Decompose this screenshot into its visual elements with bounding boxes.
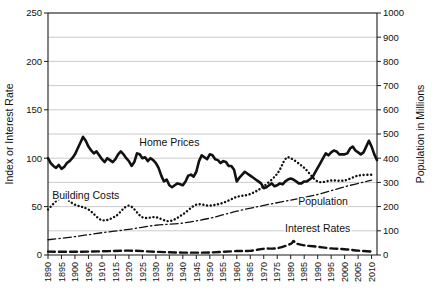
y-axis-title-right: Population in Millions bbox=[414, 85, 426, 184]
x-tick-label: 1990 bbox=[313, 262, 323, 282]
x-tick-label: 1895 bbox=[57, 262, 67, 282]
x-tick-label: 2000 bbox=[340, 262, 350, 282]
y-axis-title-left: Index or Interest Rate bbox=[3, 83, 15, 184]
y-tick-label-left: 150 bbox=[26, 104, 42, 115]
x-tick-label: 1910 bbox=[97, 262, 107, 282]
y-tick-label-right: 400 bbox=[383, 153, 399, 164]
y-tick-label-right: 900 bbox=[383, 32, 399, 43]
y-tick-label-right: 800 bbox=[383, 56, 399, 67]
y-tick-label-right: 1000 bbox=[383, 7, 404, 18]
x-tick-label: 1900 bbox=[70, 262, 80, 282]
x-tick-label: 1960 bbox=[232, 262, 242, 282]
series-interest-rates bbox=[48, 241, 372, 253]
x-tick-label: 1920 bbox=[124, 262, 134, 282]
chart-svg: 0501001502002500100200300400500600700800… bbox=[0, 0, 434, 299]
x-tick-label: 1890 bbox=[43, 262, 53, 282]
y-tick-label-right: 200 bbox=[383, 201, 399, 212]
x-tick-label: 1950 bbox=[205, 262, 215, 282]
y-tick-label-right: 0 bbox=[383, 249, 388, 260]
x-tick-label: 1905 bbox=[84, 262, 94, 282]
x-tick-label: 1940 bbox=[178, 262, 188, 282]
x-tick-label: 1930 bbox=[151, 262, 161, 282]
annotation-building-costs: Building Costs bbox=[52, 189, 119, 201]
y-tick-label-left: 0 bbox=[37, 249, 42, 260]
x-tick-label: 1955 bbox=[218, 262, 228, 282]
annotation-home-prices: Home Prices bbox=[139, 136, 199, 148]
x-tick-label: 1935 bbox=[165, 262, 175, 282]
x-tick-label: 1945 bbox=[192, 262, 202, 282]
y-tick-label-left: 250 bbox=[26, 7, 42, 18]
x-tick-label: 1965 bbox=[245, 262, 255, 282]
y-tick-label-right: 100 bbox=[383, 225, 399, 236]
x-tick-label: 1915 bbox=[111, 262, 121, 282]
tick-labels: 0501001502002500100200300400500600700800… bbox=[26, 7, 404, 282]
x-tick-label: 1980 bbox=[286, 262, 296, 282]
x-tick-label: 1975 bbox=[272, 262, 282, 282]
x-tick-label: 2010 bbox=[367, 262, 377, 282]
x-tick-label: 1985 bbox=[299, 262, 309, 282]
x-tick-label: 1925 bbox=[138, 262, 148, 282]
y-tick-label-right: 300 bbox=[383, 177, 399, 188]
annotation-interest-rates: Interest Rates bbox=[285, 222, 350, 234]
y-tick-label-right: 500 bbox=[383, 128, 399, 139]
y-tick-label-left: 50 bbox=[31, 201, 42, 212]
x-tick-label: 2005 bbox=[353, 262, 363, 282]
y-tick-label-right: 600 bbox=[383, 104, 399, 115]
y-tick-label-right: 700 bbox=[383, 80, 399, 91]
annotation-population: Population bbox=[298, 195, 348, 207]
x-tick-label: 1970 bbox=[259, 262, 269, 282]
y-tick-label-left: 100 bbox=[26, 153, 42, 164]
x-tick-label: 1995 bbox=[326, 262, 336, 282]
chart-container: 0501001502002500100200300400500600700800… bbox=[0, 0, 434, 299]
y-tick-label-left: 200 bbox=[26, 56, 42, 67]
